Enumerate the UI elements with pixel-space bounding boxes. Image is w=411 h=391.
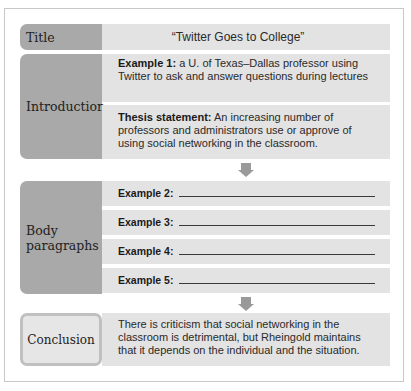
body-section: Body paragraphs Example 2: Example 3: Ex… (20, 181, 390, 294)
body-label: Body paragraphs (20, 181, 102, 294)
conclusion-text: There is criticism that social networkin… (102, 313, 390, 366)
blank-line (179, 225, 375, 226)
example-label: Example 3: (118, 216, 173, 229)
introduction-section: Introduction Example 1: a U. of Texas–Da… (20, 54, 390, 159)
blank-line (179, 196, 375, 197)
example-label: Example 2: (118, 187, 173, 200)
thesis-heading: Thesis statement: (118, 111, 212, 123)
down-arrow-icon (238, 163, 254, 177)
example-1-cell: Example 1: a U. of Texas–Dallas professo… (102, 54, 390, 102)
body-example-row: Example 4: (102, 239, 390, 264)
example-1-heading: Example 1: (118, 57, 176, 69)
essay-title: “Twitter Goes to College” (102, 24, 390, 50)
introduction-label: Introduction (20, 54, 102, 159)
down-arrow-icon (238, 297, 254, 311)
title-label: Title (20, 24, 102, 50)
title-row: Title “Twitter Goes to College” (20, 24, 390, 50)
example-label: Example 5: (118, 274, 173, 287)
body-example-row: Example 5: (102, 268, 390, 293)
body-example-row: Example 3: (102, 210, 390, 235)
conclusion-label: Conclusion (20, 313, 102, 366)
thesis-cell: Thesis statement: An increasing number o… (102, 105, 390, 159)
example-label: Example 4: (118, 245, 173, 258)
conclusion-section: Conclusion There is criticism that socia… (20, 313, 390, 366)
blank-line (179, 283, 375, 284)
blank-line (179, 254, 375, 255)
body-example-row: Example 2: (102, 181, 390, 206)
